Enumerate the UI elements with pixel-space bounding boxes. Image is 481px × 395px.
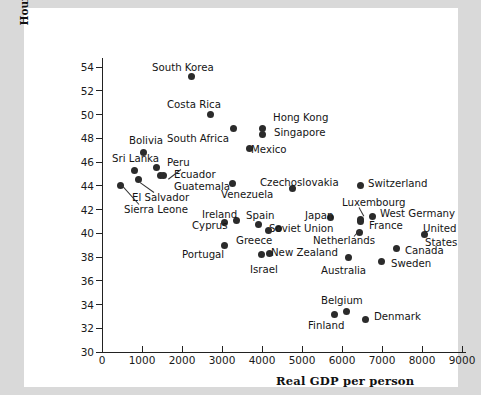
data-point (160, 172, 167, 179)
x-tick (462, 346, 463, 352)
y-tick (96, 90, 102, 91)
y-tick-label: 52 (68, 86, 94, 96)
point-label: France (369, 221, 403, 231)
point-label: West Germany (380, 209, 455, 219)
point-label: Sweden (391, 259, 431, 269)
y-tick (96, 114, 102, 115)
data-point (259, 131, 266, 138)
data-point (258, 251, 265, 258)
x-tick (262, 346, 263, 352)
x-tick (142, 346, 143, 352)
point-label: Hong Kong (273, 113, 328, 123)
y-tick-label: 46 (68, 157, 94, 167)
point-label: Portugal (182, 250, 224, 260)
x-axis-title: Real GDP per person (276, 374, 414, 388)
point-label: Czechoslovakia (260, 178, 339, 188)
y-tick (96, 138, 102, 139)
y-tick (96, 280, 102, 281)
point-label: Sierra Leone (124, 205, 188, 215)
y-tick-label: 32 (68, 323, 94, 333)
x-tick (342, 346, 343, 352)
point-label: Spain (246, 211, 274, 221)
point-label: Singapore (274, 128, 325, 138)
point-label: South Africa (167, 134, 229, 144)
x-tick (182, 346, 183, 352)
data-point (230, 125, 237, 132)
data-point (331, 311, 338, 318)
chart-figure: Hours of work per week 30323436384042444… (24, 8, 458, 387)
point-label: Sri Lanka (112, 154, 159, 164)
point-label: New Zealand (271, 248, 338, 258)
point-label: Finland (308, 321, 344, 331)
x-tick (382, 346, 383, 352)
y-tick (96, 257, 102, 258)
y-axis-line (102, 58, 103, 353)
point-label: Netherlands (313, 236, 375, 246)
data-point (229, 180, 236, 187)
point-label: Peru (167, 158, 190, 168)
point-label: Japan (305, 211, 333, 221)
point-label: Ireland (202, 210, 237, 220)
point-label: Belgium (321, 296, 363, 306)
point-label: United (423, 224, 456, 234)
point-label: Canada (405, 246, 444, 256)
data-point (357, 218, 364, 225)
data-point (255, 221, 262, 228)
data-point (188, 73, 195, 80)
y-tick-label: 50 (68, 110, 94, 120)
y-tick (96, 185, 102, 186)
y-tick-label: 34 (68, 300, 94, 310)
y-tick-label: 38 (68, 252, 94, 262)
data-point (343, 308, 350, 315)
point-label: Australia (321, 266, 366, 276)
point-label: El Salvador (132, 193, 189, 203)
x-tick (422, 346, 423, 352)
point-label: Ecuador (174, 170, 216, 180)
y-tick-label: 42 (68, 205, 94, 215)
y-tick (96, 328, 102, 329)
y-tick (96, 233, 102, 234)
data-point (362, 316, 369, 323)
x-tick (102, 346, 103, 352)
y-tick-label: 40 (68, 228, 94, 238)
data-point (393, 245, 400, 252)
point-label: Switzerland (368, 179, 427, 189)
point-label: Israel (250, 265, 278, 275)
data-point (153, 164, 160, 171)
data-point (207, 111, 214, 118)
data-point (131, 167, 138, 174)
point-label: Greece (236, 236, 272, 246)
point-label: Cyprus (192, 221, 228, 231)
y-tick (96, 209, 102, 210)
x-tick (222, 346, 223, 352)
data-point (357, 182, 364, 189)
point-label: Denmark (374, 312, 421, 322)
point-label: Mexico (251, 145, 287, 155)
point-label: Bolivia (129, 136, 163, 146)
y-tick (96, 304, 102, 305)
point-label: Costa Rica (167, 100, 221, 110)
data-point (345, 254, 352, 261)
point-label: South Korea (152, 63, 214, 73)
x-tick-label: 9000 (439, 354, 481, 366)
y-tick (96, 67, 102, 68)
data-point (378, 258, 385, 265)
y-tick-label: 54 (68, 62, 94, 72)
y-tick (96, 162, 102, 163)
y-tick-label: 36 (68, 276, 94, 286)
y-tick-label: 48 (68, 133, 94, 143)
y-tick-label: 44 (68, 181, 94, 191)
data-point (221, 242, 228, 249)
point-label: Venezuela (221, 190, 273, 200)
y-axis-title: Hours of work per week (18, 0, 43, 32)
point-label: Luxembourg (342, 198, 406, 208)
x-tick (302, 346, 303, 352)
point-label: Soviet Union (269, 224, 334, 234)
